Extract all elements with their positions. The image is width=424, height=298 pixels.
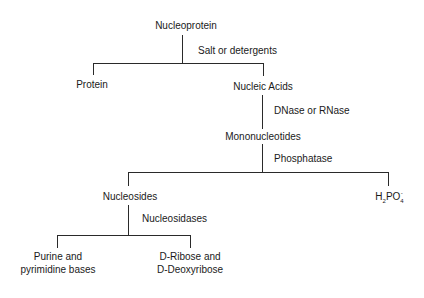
node-sugars-line-2: D-Deoxyribose — [157, 263, 223, 276]
node-protein: Protein — [76, 78, 108, 91]
node-nucleoprotein: Nucleoprotein — [155, 19, 217, 32]
node-phosphate-h2po4: H2PO4- — [375, 190, 402, 203]
phosphate-sub-4: 4 — [400, 198, 403, 204]
connector-to-sugars — [190, 235, 191, 248]
connector-to-nucleosides — [128, 172, 129, 186]
node-nucleosides: Nucleosides — [103, 190, 157, 203]
phosphate-charge: - — [401, 190, 403, 196]
connector-to-nucleic-acids — [263, 63, 264, 76]
node-sugars-line-1: D-Ribose and — [159, 250, 220, 263]
node-bases-line-2: pyrimidine bases — [20, 263, 95, 276]
connector-mononucleotides-stem — [262, 144, 263, 172]
node-mononucleotides: Mononucleotides — [225, 130, 301, 143]
connector-to-phosphate — [388, 172, 389, 186]
connector-to-bases — [57, 235, 58, 248]
connector-split-1 — [93, 63, 264, 64]
connector-nucleoprotein-stem — [182, 35, 183, 63]
phosphate-po: PO — [386, 191, 400, 202]
edge-label-dnase-or-rnase: DNase or RNase — [274, 104, 350, 117]
connector-nucleosides-stem — [128, 205, 129, 235]
node-nucleic-acids: Nucleic Acids — [233, 80, 292, 93]
connector-split-2 — [128, 172, 389, 173]
edge-label-nucleosidases: Nucleosidases — [142, 212, 207, 225]
connector-nucleic-acids-to-mononucleotides — [262, 95, 263, 129]
nucleoprotein-pathway-diagram: Nucleoprotein Salt or detergents Protein… — [0, 0, 424, 298]
node-bases-line-1: Purine and — [34, 250, 82, 263]
edge-label-salt-or-detergents: Salt or detergents — [198, 44, 277, 57]
connector-split-3 — [57, 235, 191, 236]
connector-to-protein — [93, 63, 94, 75]
edge-label-phosphatase: Phosphatase — [274, 152, 332, 165]
